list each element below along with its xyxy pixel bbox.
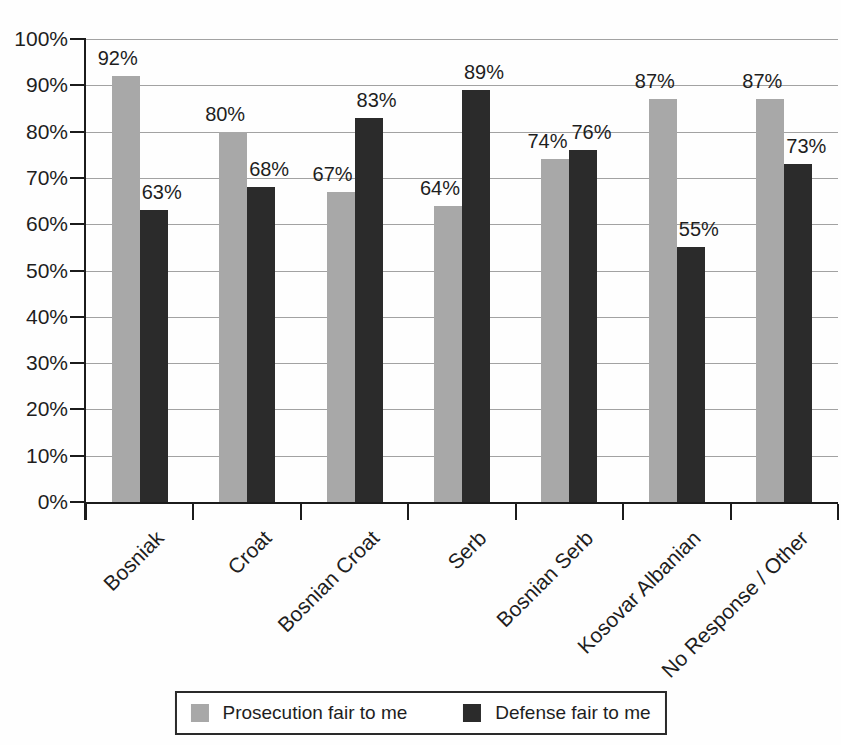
bar-defense-2 (355, 118, 383, 502)
bar-prosecution-5 (649, 99, 677, 502)
bar-defense-4 (569, 150, 597, 502)
bar-prosecution-1 (219, 132, 247, 502)
value-label-prosecution-4: 74% (527, 129, 567, 153)
legend-item-prosecution: Prosecution fair to me (190, 702, 407, 724)
x-tick-1 (192, 504, 194, 520)
value-label-prosecution-5: 87% (635, 69, 675, 93)
y-tick-label-40: 40% (0, 305, 68, 329)
y-tick-label-60: 60% (0, 212, 68, 236)
y-tick-label-20: 20% (0, 397, 68, 421)
legend-label-defense: Defense fair to me (495, 702, 650, 724)
value-label-defense-6: 73% (786, 134, 826, 158)
x-tick-7 (837, 504, 839, 520)
x-category-label-4: Bosnian Serb (492, 526, 598, 632)
x-tick-0 (85, 504, 87, 520)
bar-defense-3 (462, 90, 490, 502)
value-label-defense-4: 76% (571, 120, 611, 144)
x-category-label-0: Bosniak (99, 526, 169, 596)
x-tick-5 (622, 504, 624, 520)
gridline-100 (86, 39, 838, 40)
y-axis-line (84, 39, 86, 520)
bar-defense-6 (784, 164, 812, 502)
bar-prosecution-2 (327, 192, 355, 502)
value-label-prosecution-2: 67% (313, 162, 353, 186)
y-tick-label-70: 70% (0, 166, 68, 190)
value-label-defense-0: 63% (142, 180, 182, 204)
x-tick-3 (407, 504, 409, 520)
bar-prosecution-0 (112, 76, 140, 502)
bar-prosecution-3 (434, 206, 462, 502)
legend-swatch-prosecution (190, 704, 208, 722)
y-tick-label-30: 30% (0, 351, 68, 375)
value-label-prosecution-3: 64% (420, 176, 460, 200)
y-tick-label-0: 0% (0, 490, 68, 514)
x-category-label-1: Croat (223, 526, 276, 579)
bar-prosecution-4 (541, 159, 569, 502)
y-tick-label-80: 80% (0, 120, 68, 144)
y-tick-label-10: 10% (0, 444, 68, 468)
bar-defense-0 (140, 210, 168, 502)
value-label-prosecution-6: 87% (742, 69, 782, 93)
y-tick-label-90: 90% (0, 73, 68, 97)
legend-swatch-defense (463, 704, 481, 722)
legend-label-prosecution: Prosecution fair to me (222, 702, 407, 724)
value-label-defense-2: 83% (357, 88, 397, 112)
x-tick-2 (300, 504, 302, 520)
bar-defense-1 (247, 187, 275, 502)
x-category-label-3: Serb (443, 526, 491, 574)
x-tick-4 (515, 504, 517, 520)
bar-prosecution-6 (756, 99, 784, 502)
x-axis-line (84, 502, 838, 504)
gridline-90 (86, 85, 838, 86)
value-label-prosecution-1: 80% (205, 102, 245, 126)
legend-item-defense: Defense fair to me (463, 702, 650, 724)
y-tick-label-100: 100% (0, 27, 68, 51)
value-label-prosecution-0: 92% (98, 46, 138, 70)
y-tick-label-50: 50% (0, 259, 68, 283)
x-category-label-2: Bosnian Croat (272, 526, 383, 637)
legend: Prosecution fair to me Defense fair to m… (174, 691, 666, 735)
value-label-defense-3: 89% (464, 60, 504, 84)
value-label-defense-5: 55% (679, 217, 719, 241)
bar-chart-figure: 0%10%20%30%40%50%60%70%80%90%100% 92%80%… (0, 0, 841, 745)
bar-defense-5 (677, 247, 705, 502)
value-label-defense-1: 68% (249, 157, 289, 181)
x-tick-6 (730, 504, 732, 520)
